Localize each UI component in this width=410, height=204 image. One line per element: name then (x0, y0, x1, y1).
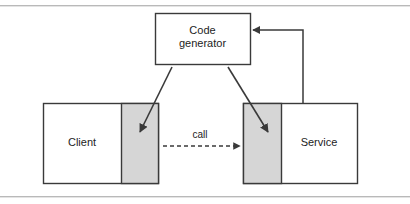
diagram-shapes (0, 0, 410, 204)
client-stub-panel (122, 104, 159, 184)
code-generator-box (156, 14, 251, 65)
interface-feedback-arrow (253, 30, 303, 103)
service-skeleton-panel (244, 104, 282, 184)
diagram-canvas: Codegenerator Client Service call (0, 0, 410, 204)
